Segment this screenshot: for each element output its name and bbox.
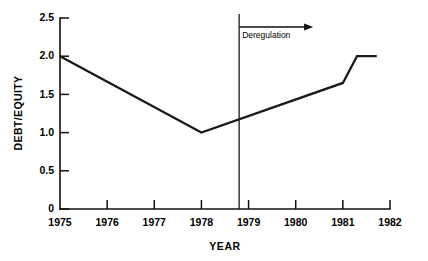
- y-tick-label-1.0: 1.0: [39, 126, 54, 138]
- x-axis-title: YEAR: [209, 240, 241, 252]
- deregulation-arrow-head-icon: [304, 23, 313, 30]
- deregulation-label: Deregulation: [242, 30, 290, 40]
- x-tick-label-1982: 1982: [378, 216, 402, 228]
- x-axis-ticks: [107, 200, 390, 209]
- y-axis-title: DEBT/EQUITY: [12, 76, 24, 151]
- debt-equity-line-chart: 00.51.01.52.02.5 19751976197719781979198…: [0, 0, 428, 261]
- x-tick-label-1980: 1980: [284, 216, 308, 228]
- chart-container: 00.51.01.52.02.5 19751976197719781979198…: [0, 0, 428, 261]
- y-axis-ticks: [60, 18, 69, 209]
- data-series-line: [60, 56, 377, 132]
- y-tick-label-2.0: 2.0: [39, 49, 54, 61]
- x-tick-label-1975: 1975: [48, 216, 72, 228]
- x-axis-tick-labels: 19751976197719781979198019811982: [48, 216, 402, 228]
- deregulation-annotation: Deregulation: [239, 14, 313, 209]
- x-tick-label-1978: 1978: [190, 216, 214, 228]
- y-axis-tick-labels: 00.51.01.52.02.5: [39, 11, 54, 214]
- x-tick-label-1977: 1977: [143, 216, 167, 228]
- x-tick-label-1981: 1981: [331, 216, 355, 228]
- y-tick-label-0.5: 0.5: [39, 164, 54, 176]
- y-tick-label-0: 0: [48, 202, 54, 214]
- y-tick-label-2.5: 2.5: [39, 11, 54, 23]
- x-tick-label-1979: 1979: [237, 216, 261, 228]
- x-tick-label-1976: 1976: [95, 216, 119, 228]
- y-tick-label-1.5: 1.5: [39, 88, 54, 100]
